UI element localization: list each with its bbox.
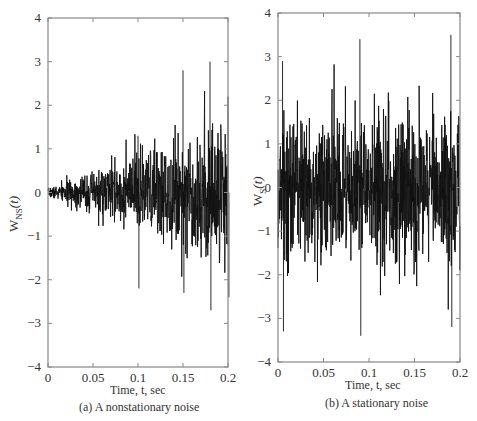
x-tick-label: 0.05 bbox=[312, 365, 335, 380]
y-tick-label: −1 bbox=[27, 228, 41, 243]
plot-area-a: 00.050.10.150.2−4−3−2−101234 bbox=[0, 0, 238, 421]
y-tick-label: −4 bbox=[27, 359, 41, 374]
y-tick-label: 3 bbox=[265, 49, 272, 64]
x-tick-label: 0.2 bbox=[220, 370, 236, 385]
x-tick-label: 0.05 bbox=[82, 370, 105, 385]
y-axis-label-b: WS(t) bbox=[250, 176, 268, 206]
x-tick-label: 0.2 bbox=[452, 365, 468, 380]
y-tick-label: 3 bbox=[35, 54, 42, 69]
caption-a: (a) A nonstationary noise bbox=[79, 400, 199, 415]
x-tick-label: 0.15 bbox=[172, 370, 195, 385]
y-tick-label: −3 bbox=[257, 310, 271, 325]
figure-stationary-noise: 00.050.10.150.2−4−3−2−101234 WS(t) Time,… bbox=[238, 0, 477, 421]
x-axis-label-b: Time, t, sec bbox=[345, 378, 401, 393]
x-tick-label: 0 bbox=[45, 370, 52, 385]
caption-b: (b) A stationary noise bbox=[325, 396, 428, 411]
y-tick-label: 4 bbox=[265, 5, 272, 20]
x-tick-label: 0.15 bbox=[403, 365, 426, 380]
y-tick-label: 1 bbox=[35, 141, 42, 156]
noise-signal bbox=[278, 64, 460, 309]
y-axis-label-a: WNS(t) bbox=[6, 196, 24, 232]
y-tick-label: −3 bbox=[27, 315, 41, 330]
y-tick-label: −2 bbox=[257, 267, 271, 282]
y-tick-label: 1 bbox=[265, 136, 272, 151]
y-tick-label: 4 bbox=[35, 10, 42, 25]
plot-area-b: 00.050.10.150.2−4−3−2−101234 bbox=[238, 0, 477, 421]
y-tick-label: −4 bbox=[257, 354, 271, 369]
x-axis-label-a: Time, t, sec bbox=[110, 383, 166, 398]
figure-nonstationary-noise: 00.050.10.150.2−4−3−2−101234 WNS(t) Time… bbox=[0, 0, 238, 421]
y-tick-label: −2 bbox=[27, 272, 41, 287]
x-tick-label: 0 bbox=[275, 365, 282, 380]
y-tick-label: 2 bbox=[265, 92, 272, 107]
y-tick-label: 0 bbox=[35, 185, 42, 200]
y-tick-label: 2 bbox=[35, 97, 42, 112]
y-tick-label: −1 bbox=[257, 223, 271, 238]
